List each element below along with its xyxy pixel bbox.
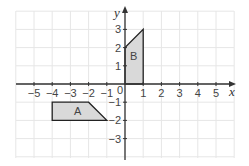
y-tick-label: 1	[115, 60, 121, 72]
x-tick-label: −2	[82, 87, 95, 99]
x-tick-label: 1	[140, 87, 146, 99]
y-tick-label: 3	[115, 23, 121, 35]
origin-label: 0	[117, 84, 123, 96]
x-axis-label: x	[228, 84, 235, 99]
x-tick-label: −4	[46, 87, 59, 99]
shape-label-b: B	[130, 50, 137, 62]
y-tick-label: −2	[108, 114, 121, 126]
x-tick-label: 4	[195, 87, 201, 99]
y-tick-label: −1	[108, 96, 121, 108]
x-tick-label: −3	[64, 87, 77, 99]
x-tick-label: 5	[213, 87, 219, 99]
y-axis-label: y	[112, 5, 120, 20]
coordinate-grid-diagram: AB x y 0 −5−4−3−2−112345321−1−2−3	[0, 0, 249, 166]
grid-svg: AB x y 0 −5−4−3−2−112345321−1−2−3	[0, 0, 249, 166]
y-tick-label: 2	[115, 42, 121, 54]
y-axis-arrow-icon	[122, 6, 128, 13]
shape-label-a: A	[74, 105, 82, 117]
shapes: AB	[52, 29, 143, 120]
x-tick-label: 3	[177, 87, 183, 99]
y-tick-label: −3	[108, 133, 121, 145]
x-tick-label: 2	[158, 87, 164, 99]
x-tick-label: −5	[28, 87, 41, 99]
